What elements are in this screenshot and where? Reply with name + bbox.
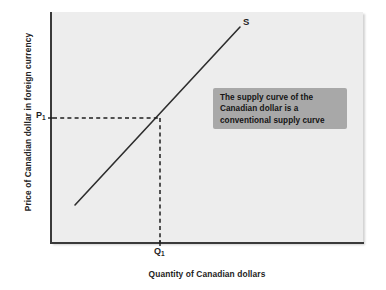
y-axis-tick-label-p1: P1 [36, 110, 46, 120]
supply-curve-label: S [243, 16, 249, 27]
x-axis-tick-label-q1: Q1 [154, 246, 165, 256]
callout-line-3: conventional supply curve [220, 115, 347, 126]
x-axis-title: Quantity of Canadian dollars [51, 269, 363, 279]
callout-line-2: Canadian dollar is a [220, 103, 347, 114]
callout-box: The supply curve of the Canadian dollar … [213, 88, 347, 129]
y-axis-title: Price of Canadian dollar in foreign curr… [23, 22, 33, 222]
supply-curve-figure: S P1 Q1 Price of Canadian dollar in fore… [0, 0, 386, 290]
y-axis-line [50, 12, 52, 244]
quantity-tick-letter: Q [154, 246, 161, 256]
quantity-tick-subscript: 1 [161, 250, 165, 257]
callout-line-1: The supply curve of the [220, 92, 347, 103]
x-axis-line [50, 242, 364, 244]
price-tick-subscript: 1 [42, 114, 46, 121]
